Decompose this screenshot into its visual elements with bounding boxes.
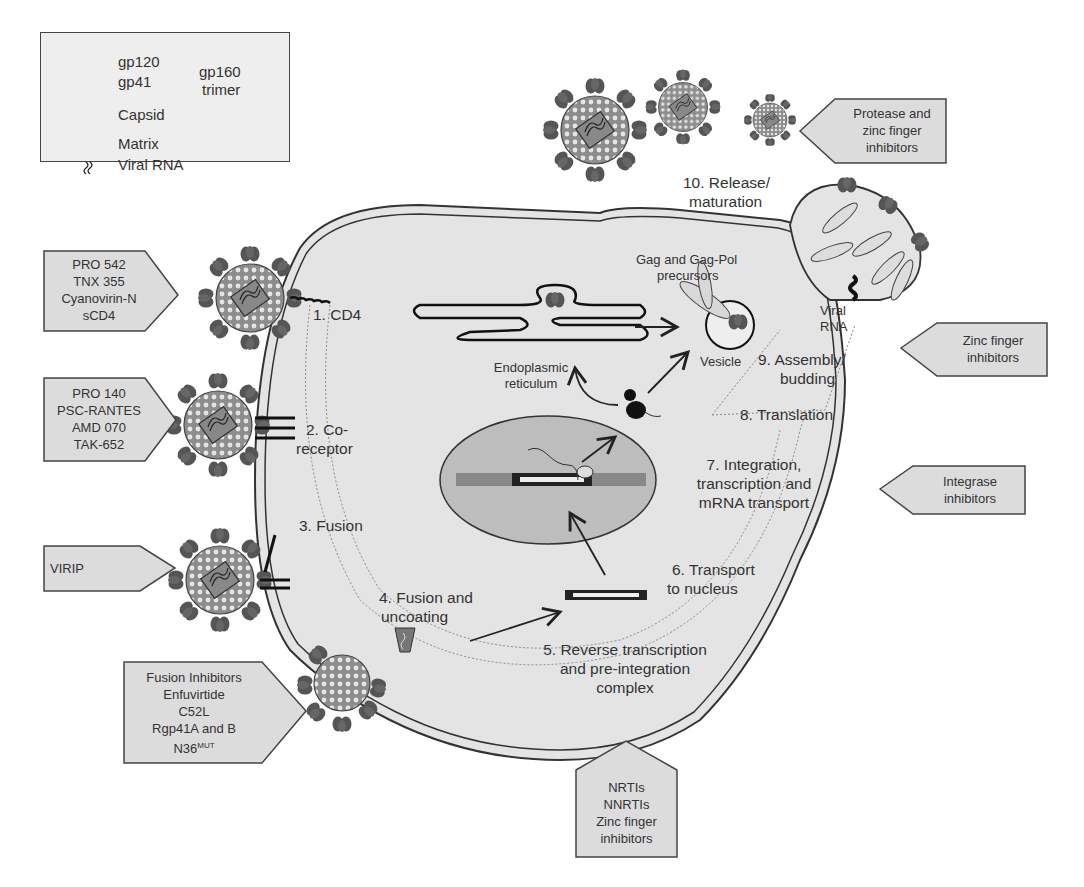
- step-7-label-a: 7. Integration,: [680, 455, 828, 474]
- legend-gp160: gp160: [199, 63, 241, 81]
- virip-text: VIRIP: [50, 560, 120, 577]
- step-10-label-a: 10. Release/: [683, 173, 770, 192]
- legend-viral-rna: Viral RNA: [118, 156, 184, 174]
- step-10-label-b: maturation: [689, 192, 762, 211]
- virion-coreceptor: [166, 373, 270, 477]
- step-9-label-b: budding: [780, 369, 835, 388]
- er-label-b: reticulum: [476, 376, 586, 392]
- protease-inhibitors-text: Protease andzinc finger inhibitors: [840, 105, 944, 156]
- cd4-inhibitors-text: PRO 542TNX 355 Cyanovirin-NsCD4: [44, 256, 154, 324]
- step-6-label-a: 6. Transport: [672, 560, 755, 579]
- step-5-label-b: and pre-integration: [535, 659, 715, 678]
- er-label-a: Endoplasmic: [476, 360, 586, 376]
- legend-capsid: Capsid: [118, 106, 165, 124]
- legend-gp120: gp120: [118, 53, 160, 71]
- viral-rna-label-b: RNA: [820, 319, 847, 335]
- step-3-label: 3. Fusion: [299, 516, 363, 535]
- step-2-label-b: receptor: [296, 439, 353, 458]
- step-4-label-b: uncoating: [381, 607, 448, 626]
- integrase-inhibitors-text: Integraseinhibitors: [922, 473, 1018, 507]
- gag-label-b: precursors: [657, 268, 718, 284]
- step-4-label-a: 4. Fusion and: [379, 588, 473, 607]
- step-5-label-c: complex: [535, 678, 715, 697]
- zinc-finger-inhibitors-text: Zinc fingerinhibitors: [945, 332, 1041, 366]
- virion-mature: [543, 78, 647, 182]
- virion-maturing: [646, 70, 721, 145]
- legend-box: [40, 32, 290, 162]
- fusion-inhibitors-text: Fusion InhibitorsEnfuvirtide C52LRgp41A …: [124, 669, 264, 757]
- viral-rna-label-a: Viral: [820, 303, 846, 319]
- legend-gp41: gp41: [118, 73, 151, 91]
- vesicle-label: Vesicle: [700, 354, 741, 370]
- legend-matrix: Matrix: [118, 135, 159, 153]
- step-7-label-b: transcription and: [680, 474, 828, 493]
- gag-label-a: Gag and Gag-Pol: [636, 252, 737, 268]
- step-2-label-a: 2. Co-: [306, 420, 348, 439]
- step-5-label-a: 5. Reverse transcription: [535, 640, 715, 659]
- step-8-label: 8. Translation: [740, 405, 833, 424]
- coreceptor-inhibitors-text: PRO 140PSC-RANTES AMD 070TAK-652: [44, 385, 154, 453]
- virion-fusion: [168, 528, 272, 632]
- virion-immature: [744, 94, 796, 146]
- step-9-label-a: 9. Assembly/: [758, 350, 846, 369]
- legend-trimer: trimer: [202, 81, 240, 99]
- rt-inhibitors-text: NRTIsNNRTIs Zinc fingerinhibitors: [576, 779, 677, 847]
- step-1-label: 1. CD4: [313, 305, 361, 324]
- step-6-label-b: to nucleus: [667, 579, 738, 598]
- step-7-label-c: mRNA transport: [680, 493, 828, 512]
